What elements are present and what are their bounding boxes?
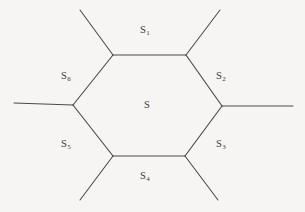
label-s3: S3 [216, 139, 226, 151]
label-s6: S6 [61, 71, 71, 83]
label-s3-subscript: 3 [222, 143, 226, 151]
label-s5-subscript: 5 [67, 143, 71, 151]
label-s5: S5 [61, 139, 71, 151]
ray-left-line [14, 103, 73, 105]
ray-up-left-line [80, 10, 113, 55]
label-s4-subscript: 4 [146, 175, 150, 183]
ray-down-right-line [185, 156, 218, 200]
label-s6-subscript: 6 [67, 75, 71, 83]
figure-canvas [0, 0, 305, 212]
ray-down-left-line [80, 156, 113, 200]
label-s-center: S [144, 100, 150, 112]
label-s-center-base: S [144, 99, 150, 110]
label-s2-subscript: 2 [222, 75, 226, 83]
hex-edge-lower-left [73, 105, 113, 156]
outward-rays [14, 10, 293, 200]
hexagon-cell-figure: S1 S2 S3 S4 S5 S6 S [0, 0, 305, 212]
ray-up-right-line [186, 10, 220, 55]
label-s1-subscript: 1 [146, 29, 150, 37]
label-s4: S4 [140, 171, 150, 183]
label-s2: S2 [216, 71, 226, 83]
label-s1: S1 [140, 25, 150, 37]
hex-edge-upper-left [73, 55, 113, 105]
